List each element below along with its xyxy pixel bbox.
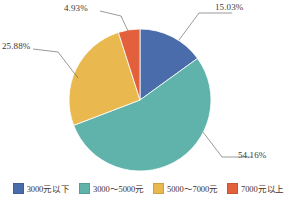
- legend-swatch-icon: [227, 183, 238, 194]
- slice-label-3000-below: 15.03%: [215, 2, 243, 12]
- legend-item-label: 3000～5000元: [93, 182, 144, 194]
- pie-slice-group: [69, 29, 211, 171]
- legend-item[interactable]: 3000元以下: [13, 182, 70, 194]
- legend-item-label: 3000元以下: [27, 182, 70, 194]
- slice-label-3000-5000: 54.16%: [238, 150, 266, 160]
- legend-swatch-icon: [153, 183, 164, 194]
- legend-swatch-icon: [79, 183, 90, 194]
- legend-item-label: 7000元以上: [241, 182, 284, 194]
- pie-chart-figure: 15.03% 54.16% 25.88% 4.93% 3000元以下3000～5…: [0, 0, 297, 207]
- slice-label-5000-7000: 25.88%: [2, 41, 30, 51]
- slice-label-7000-above: 4.93%: [64, 3, 88, 13]
- chart-legend: 3000元以下3000～5000元5000～7000元7000元以上: [0, 180, 297, 196]
- legend-item[interactable]: 7000元以上: [227, 182, 284, 194]
- chart-plot-area: 15.03% 54.16% 25.88% 4.93%: [0, 0, 297, 178]
- footer-cropped-caption: [0, 199, 297, 207]
- legend-item[interactable]: 5000～7000元: [153, 182, 218, 194]
- legend-item[interactable]: 3000～5000元: [79, 182, 144, 194]
- leader-line-15: [179, 13, 232, 40]
- legend-item-label: 5000～7000元: [167, 182, 218, 194]
- leader-line-4: [100, 11, 128, 31]
- leader-line-25: [33, 49, 78, 78]
- legend-swatch-icon: [13, 183, 24, 194]
